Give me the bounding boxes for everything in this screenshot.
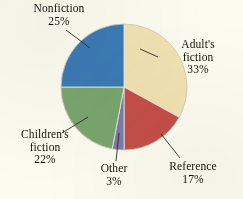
slice-label-reference-percent: 17% [152, 173, 234, 186]
slice-label-nonfiction-percent: 25% [16, 15, 102, 28]
slice-label-adults-fiction-percent: 33% [160, 63, 236, 76]
slice-label-other-name: Other [88, 162, 140, 175]
slice-label-reference: Reference 17% [152, 160, 234, 185]
pie-chart-figure: Nonfiction 25% Adult's fiction 33% Child… [0, 0, 243, 199]
slice-label-adults-fiction: Adult's fiction 33% [160, 38, 236, 76]
slice-label-nonfiction: Nonfiction 25% [16, 2, 102, 27]
slice-label-reference-name: Reference [152, 160, 234, 173]
slice-label-other-percent: 3% [88, 175, 140, 188]
slice-label-other: Other 3% [88, 162, 140, 187]
slice-label-adults-fiction-line1: Adult's [160, 38, 236, 51]
slice-label-childrens-fiction-line2: fiction [2, 141, 88, 154]
slice-label-childrens-fiction: Children's fiction 22% [2, 128, 88, 166]
leader-line-reference [161, 134, 180, 158]
slice-label-nonfiction-name: Nonfiction [16, 2, 102, 15]
slice-label-adults-fiction-line2: fiction [160, 51, 236, 64]
slice-label-childrens-fiction-line1: Children's [2, 128, 88, 141]
slice-label-childrens-fiction-percent: 22% [2, 153, 88, 166]
